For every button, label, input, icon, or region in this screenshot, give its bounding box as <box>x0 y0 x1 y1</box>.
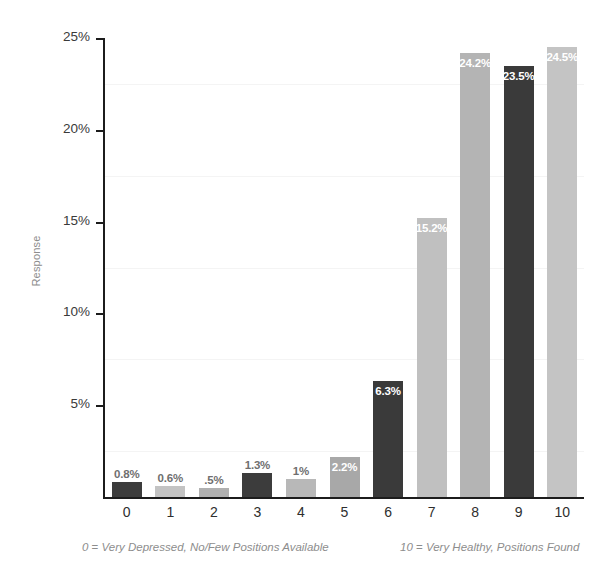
bar[interactable] <box>547 47 577 497</box>
x-tick-label: 2 <box>194 504 234 520</box>
x-tick-label: 5 <box>325 504 365 520</box>
footnote-left-text: Very Depressed, No/Few Positions Availab… <box>102 541 329 553</box>
bar-column[interactable]: 2.2% <box>330 38 360 497</box>
y-tick-label: 25% <box>4 29 90 44</box>
bar-value-label: 0.8% <box>114 468 139 480</box>
bar-column[interactable]: 24.2% <box>460 38 490 497</box>
bar-column[interactable]: .5% <box>199 38 229 497</box>
footnote-right-equals: = <box>416 541 423 553</box>
bar-value-label: .5% <box>204 474 223 486</box>
bar-value-label: 24.2% <box>459 57 491 69</box>
bar-value-label: 6.3% <box>375 385 400 397</box>
bar[interactable] <box>112 482 142 497</box>
x-tick-label: 1 <box>150 504 190 520</box>
x-axis-line <box>103 497 584 499</box>
x-tick-label: 6 <box>368 504 408 520</box>
x-tick-label: 4 <box>281 504 321 520</box>
bar[interactable] <box>373 381 403 497</box>
y-axis-line <box>103 38 105 498</box>
y-tick-label: 15% <box>4 213 90 228</box>
bar-value-label: 24.5% <box>546 51 578 63</box>
x-tick-label: 0 <box>107 504 147 520</box>
x-tick-label: 7 <box>412 504 452 520</box>
bar[interactable] <box>155 486 185 497</box>
bar-column[interactable]: 0.8% <box>112 38 142 497</box>
bar[interactable] <box>460 53 490 497</box>
x-tick-label: 9 <box>499 504 539 520</box>
footnote-right-number: 10 <box>400 541 413 553</box>
footnote-left: 0 = Very Depressed, No/Few Positions Ava… <box>82 541 329 553</box>
y-tick-label: 20% <box>4 121 90 136</box>
footnote-left-equals: = <box>92 541 99 553</box>
bar-value-label: 1.3% <box>245 459 270 471</box>
bar-value-label: 15.2% <box>416 222 448 234</box>
bar-column[interactable]: 6.3% <box>373 38 403 497</box>
bar-column[interactable]: 1.3% <box>242 38 272 497</box>
bar-value-label: 0.6% <box>158 472 183 484</box>
bar-value-label: 2.2% <box>332 461 357 473</box>
bar-column[interactable]: 24.5% <box>547 38 577 497</box>
y-tick-label: 10% <box>4 304 90 319</box>
x-tick-label: 10 <box>542 504 582 520</box>
x-tick-label: 3 <box>237 504 277 520</box>
bar-column[interactable]: 1% <box>286 38 316 497</box>
bar[interactable] <box>242 473 272 497</box>
x-tick-label: 8 <box>455 504 495 520</box>
bar-column[interactable]: 23.5% <box>504 38 534 497</box>
bar-chart: Response 25%20%15%10%5% 0.8%0.6%.5%1.3%1… <box>0 0 598 585</box>
footnote-left-number: 0 <box>82 541 88 553</box>
y-tick-label: 5% <box>4 396 90 411</box>
bar-value-label: 23.5% <box>503 70 535 82</box>
bar[interactable] <box>286 479 316 497</box>
bar-column[interactable]: 0.6% <box>155 38 185 497</box>
footnote-right-text: Very Healthy, Positions Found <box>426 541 579 553</box>
bar-value-label: 1% <box>293 465 309 477</box>
footnote-right: 10 = Very Healthy, Positions Found <box>400 541 579 553</box>
bar-column[interactable]: 15.2% <box>417 38 447 497</box>
bar[interactable] <box>199 488 229 497</box>
bar[interactable] <box>417 218 447 497</box>
bar[interactable] <box>504 66 534 497</box>
